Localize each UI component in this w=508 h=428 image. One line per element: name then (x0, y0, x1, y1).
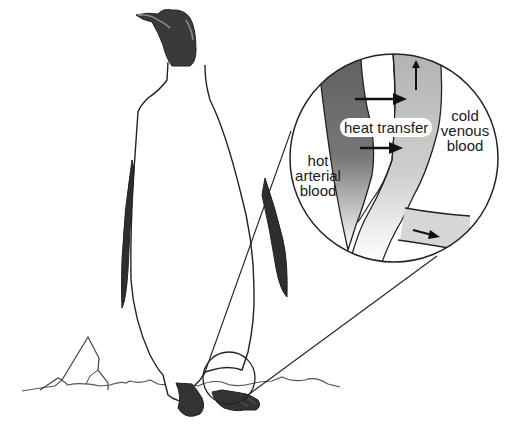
foot-right (212, 390, 260, 411)
penguin-body (131, 62, 254, 402)
penguin-head (136, 10, 196, 67)
label-line: hot (288, 153, 348, 168)
iceberg (40, 337, 108, 390)
label-line: cold (435, 108, 495, 123)
diagram-canvas: heat transfer hot arterial blood cold ve… (0, 0, 508, 428)
label-line: blood (435, 138, 495, 153)
label-line: venous (435, 123, 495, 138)
foot-left (176, 383, 204, 416)
hot-arterial-blood-label: hot arterial blood (288, 153, 348, 198)
heat-transfer-label: heat transfer (340, 118, 432, 137)
flipper-right (262, 178, 287, 297)
cold-venous-blood-label: cold venous blood (435, 108, 495, 153)
label-line: arterial (288, 168, 348, 183)
label-line: blood (288, 183, 348, 198)
